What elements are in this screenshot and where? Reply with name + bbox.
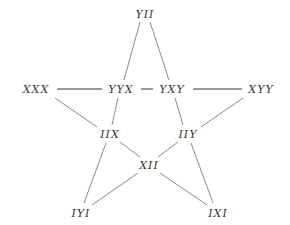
edge-yxy-iiy bbox=[175, 98, 183, 125]
edge-xii-ixi bbox=[160, 173, 207, 205]
edge-iiy-ixi bbox=[191, 143, 213, 203]
node-xxx: XXX bbox=[22, 83, 50, 96]
nodes: YII XXX YYX YXY XYY IIX IIY XII IYI IXI bbox=[22, 8, 275, 220]
node-yyx: YYX bbox=[108, 83, 134, 96]
node-iyi: IYI bbox=[71, 207, 91, 220]
node-yii: YII bbox=[136, 8, 155, 21]
node-iiy: IIY bbox=[178, 128, 199, 141]
node-ixi: IXI bbox=[207, 207, 228, 220]
node-iix: IIX bbox=[99, 128, 120, 141]
edge-iix-xii bbox=[120, 142, 140, 157]
edge-xxx-iix bbox=[55, 98, 97, 127]
node-xyy: XYY bbox=[247, 83, 274, 96]
edge-xyy-iiy bbox=[201, 98, 243, 127]
edges bbox=[55, 22, 243, 205]
edge-iiy-xii bbox=[158, 142, 178, 157]
edge-iix-iyi bbox=[84, 143, 106, 203]
node-xii: XII bbox=[138, 159, 159, 172]
star-diagram: YII XXX YYX YXY XYY IIX IIY XII IYI IXI bbox=[0, 0, 290, 225]
edge-xii-iyi bbox=[92, 173, 138, 205]
edge-yii-yxy bbox=[150, 22, 169, 80]
edge-yii-yyx bbox=[124, 22, 140, 80]
node-yxy: YXY bbox=[159, 83, 185, 96]
edge-yyx-iix bbox=[112, 98, 118, 125]
